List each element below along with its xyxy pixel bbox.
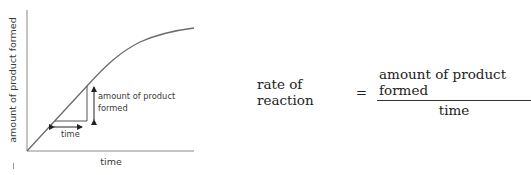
equation-lhs: rate of reaction [257, 76, 346, 108]
annotation-time: time [61, 129, 80, 139]
reaction-graph: amount of product formed time amount of … [0, 0, 240, 175]
annotation-amount-line1: amount of product [98, 90, 175, 102]
fraction: amount of product formed time [377, 66, 531, 118]
stray-tick-mark [13, 163, 14, 169]
fraction-numerator: amount of product formed [377, 66, 531, 101]
equals-sign: = [356, 84, 367, 100]
graph-canvas [0, 0, 240, 175]
x-axis-label: time [100, 156, 121, 167]
rate-equation: rate of reaction = amount of product for… [257, 72, 531, 112]
annotation-amount-line2: formed [98, 102, 175, 114]
annotation-amount: amount of product formed [98, 90, 175, 114]
y-axis-label: amount of product formed [7, 17, 18, 142]
fraction-denominator: time [439, 101, 470, 118]
